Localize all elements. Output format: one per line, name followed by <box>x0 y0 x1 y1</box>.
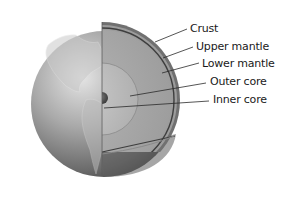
leader-upper-mantle <box>163 47 193 58</box>
label-outer-core: Outer core <box>210 76 267 88</box>
label-inner-core: Inner core <box>213 94 267 106</box>
label-upper-mantle: Upper mantle <box>196 41 269 53</box>
label-lower-mantle: Lower mantle <box>202 58 275 70</box>
label-crust: Crust <box>190 23 218 35</box>
leader-crust <box>155 29 187 42</box>
